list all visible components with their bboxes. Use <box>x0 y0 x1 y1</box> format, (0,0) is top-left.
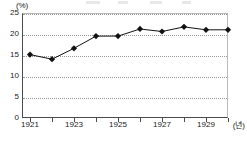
data-point-1922 <box>49 56 55 62</box>
data-point-1929 <box>203 27 209 33</box>
data-point-1921 <box>27 51 33 57</box>
data-point-1923 <box>71 45 77 51</box>
data-point-1928 <box>181 24 187 30</box>
line-chart: (%) 25 20 15 10 5 0 1921 1923 1925 1927 … <box>0 0 247 141</box>
data-point-1930 <box>225 27 231 33</box>
series-polyline <box>30 27 228 59</box>
data-point-1925 <box>115 33 121 39</box>
data-point-1924 <box>93 33 99 39</box>
series-layer <box>0 0 247 141</box>
data-point-1927 <box>159 28 165 34</box>
data-point-1926 <box>137 26 143 32</box>
